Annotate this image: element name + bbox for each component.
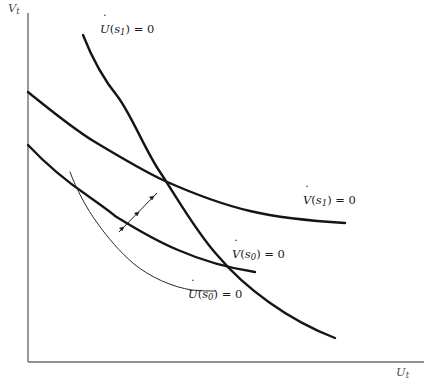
label-udot-s0: U(s0) = 0 — [188, 289, 242, 302]
label-vdot-s1-eq: = 0 — [335, 193, 356, 207]
axes-group — [28, 13, 424, 362]
phase-diagram-canvas — [0, 0, 429, 390]
label-udot-s1-eq: = 0 — [134, 22, 155, 36]
label-vdot-s1-var: V — [303, 195, 311, 207]
label-vdot-s0-var: V — [232, 249, 240, 261]
label-udot-s1-var: U — [100, 24, 110, 36]
transition-arrow — [119, 193, 157, 232]
x-axis-label: Ut — [396, 367, 409, 380]
label-udot-s1: U(s1) = 0 — [100, 24, 154, 37]
y-axis-label-sub: t — [16, 6, 19, 16]
label-vdot-s1: V(s1) = 0 — [303, 195, 356, 208]
y-axis-label: Vt — [8, 3, 20, 16]
phase-diagram-figure: Vt Ut U(s1) = 0 V(s1) = 0 V(s0) = 0 U(s0… — [0, 0, 429, 390]
x-axis-label-var: U — [396, 365, 406, 379]
label-udot-s0-eq: = 0 — [222, 287, 243, 301]
x-axis-label-sub: t — [406, 370, 409, 380]
curve-vdot-s1 — [28, 92, 345, 223]
label-udot-s0-var: U — [188, 289, 198, 301]
label-vdot-s0-eq: = 0 — [264, 247, 285, 261]
label-vdot-s0: V(s0) = 0 — [232, 249, 285, 262]
